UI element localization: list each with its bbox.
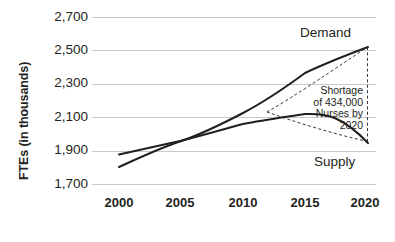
y-tick-label-2700: 2,700 bbox=[26, 9, 88, 24]
shortage-annotation-line-4: 2020 bbox=[268, 120, 363, 132]
shortage-annotation-line-1: Shortage bbox=[268, 85, 363, 97]
x-tick-label-2015: 2015 bbox=[278, 195, 332, 210]
y-tick-label-1900: 1,900 bbox=[26, 142, 88, 157]
y-tick-label-2300: 2,300 bbox=[26, 75, 88, 90]
y-tick-label-2100: 2,100 bbox=[26, 109, 88, 124]
x-tick-label-2000: 2000 bbox=[92, 195, 146, 210]
shortage-annotation: Shortage of 434,000 Nurses by 2020 bbox=[268, 85, 363, 131]
x-tick-label-2005: 2005 bbox=[153, 195, 207, 210]
y-tick-label-1700: 1,700 bbox=[26, 176, 88, 191]
nurse-supply-demand-chart: FTEs (in thousands) 2,700 2,500 2,300 2,… bbox=[0, 0, 395, 242]
supply-series-label: Supply bbox=[314, 154, 355, 169]
demand-series-label: Demand bbox=[300, 25, 351, 40]
y-tick-label-2500: 2,500 bbox=[26, 42, 88, 57]
x-tick-label-2010: 2010 bbox=[216, 195, 270, 210]
x-tick-label-2020: 2020 bbox=[338, 195, 392, 210]
y-tick-marks bbox=[92, 18, 98, 185]
